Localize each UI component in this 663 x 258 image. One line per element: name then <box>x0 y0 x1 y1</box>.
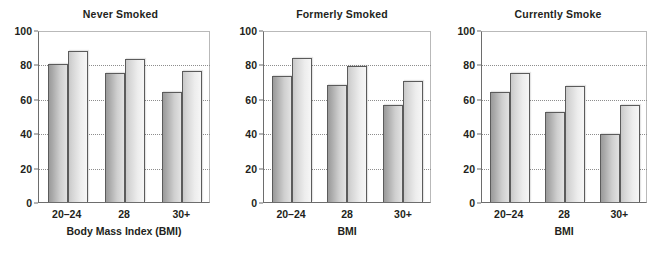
x-tick-label: 30+ <box>382 203 424 220</box>
y-tick-mark-100 <box>34 31 38 32</box>
bar <box>383 105 403 202</box>
plot-area: 020406080100 <box>481 31 647 203</box>
bar <box>620 105 640 202</box>
chart-panel-1: Formerly Smoked02040608010020–242830+BMI <box>227 0 447 258</box>
y-tick-label-40: 40 <box>463 128 475 140</box>
bar <box>182 71 202 202</box>
y-tick-mark-60 <box>259 99 263 100</box>
bar <box>545 112 565 202</box>
x-axis-label: Body Mass Index (BMI) <box>38 225 210 237</box>
bar-group <box>105 32 145 202</box>
panel-title: Formerly Smoked <box>227 8 447 20</box>
chart-panel-2: Currently Smoke02040608010020–242830+BMI <box>447 0 663 258</box>
bar <box>105 73 125 202</box>
bar-group <box>600 32 640 202</box>
bar <box>600 134 620 202</box>
y-tick-mark-80 <box>477 65 481 66</box>
bar-group <box>490 32 530 202</box>
y-tick-mark-80 <box>34 65 38 66</box>
y-tick-label-20: 20 <box>245 163 257 175</box>
y-tick-mark-20 <box>34 168 38 169</box>
bar <box>403 81 423 202</box>
y-tick-label-40: 40 <box>20 128 32 140</box>
panel-title: Never Smoked <box>0 8 227 20</box>
bar <box>272 76 292 202</box>
bar-group <box>162 32 202 202</box>
y-tick-mark-40 <box>34 134 38 135</box>
x-tick-label: 30+ <box>598 203 640 220</box>
bar-group <box>327 32 367 202</box>
bar <box>510 73 530 202</box>
bar <box>347 66 367 202</box>
x-tick-labels: 20–242830+ <box>38 203 210 223</box>
bar <box>565 86 585 202</box>
y-tick-mark-100 <box>259 31 263 32</box>
y-tick-mark-80 <box>259 65 263 66</box>
y-tick-label-60: 60 <box>245 94 257 106</box>
x-tick-labels: 20–242830+ <box>481 203 647 223</box>
y-tick-label-0: 0 <box>469 197 475 209</box>
bar-group <box>48 32 88 202</box>
bar <box>125 59 145 202</box>
bar-group <box>272 32 312 202</box>
x-tick-labels: 20–242830+ <box>263 203 431 223</box>
x-axis-label: BMI <box>263 225 431 237</box>
y-tick-mark-20 <box>477 168 481 169</box>
y-tick-mark-60 <box>477 99 481 100</box>
bar-groups <box>482 32 647 202</box>
y-tick-label-100: 100 <box>239 25 257 37</box>
x-tick-label: 28 <box>543 203 585 220</box>
x-axis-label: BMI <box>481 225 647 237</box>
bar <box>327 85 347 202</box>
bar <box>162 92 182 203</box>
x-tick-label: 28 <box>326 203 368 220</box>
y-tick-label-80: 80 <box>463 59 475 71</box>
y-tick-label-80: 80 <box>245 59 257 71</box>
plot-area: 020406080100 <box>263 31 431 203</box>
x-tick-label: 30+ <box>160 203 202 220</box>
bar <box>68 51 88 202</box>
bar-groups <box>39 32 210 202</box>
y-tick-label-80: 80 <box>20 59 32 71</box>
y-tick-label-20: 20 <box>20 163 32 175</box>
y-tick-mark-40 <box>259 134 263 135</box>
x-tick-label: 20–24 <box>488 203 530 220</box>
bar-group <box>383 32 423 202</box>
panel-title: Currently Smoke <box>447 8 663 20</box>
bar-group <box>545 32 585 202</box>
y-tick-mark-100 <box>477 31 481 32</box>
y-tick-mark-60 <box>34 99 38 100</box>
bar-groups <box>264 32 431 202</box>
y-tick-mark-40 <box>477 134 481 135</box>
y-tick-label-100: 100 <box>457 25 475 37</box>
y-tick-mark-20 <box>259 168 263 169</box>
y-tick-label-100: 100 <box>14 25 32 37</box>
x-tick-label: 20–24 <box>46 203 88 220</box>
x-tick-label: 28 <box>103 203 145 220</box>
figure-multi-panel-bar-chart: Never Smoked02040608010020–242830+Body M… <box>0 0 663 258</box>
x-tick-label: 20–24 <box>270 203 312 220</box>
y-tick-label-0: 0 <box>251 197 257 209</box>
y-tick-label-0: 0 <box>26 197 32 209</box>
y-tick-label-60: 60 <box>20 94 32 106</box>
plot-area: 020406080100 <box>38 31 210 203</box>
bar <box>48 64 68 202</box>
bar <box>292 58 312 203</box>
y-tick-label-40: 40 <box>245 128 257 140</box>
bar <box>490 92 510 203</box>
chart-panel-0: Never Smoked02040608010020–242830+Body M… <box>0 0 227 258</box>
y-tick-label-60: 60 <box>463 94 475 106</box>
y-tick-label-20: 20 <box>463 163 475 175</box>
